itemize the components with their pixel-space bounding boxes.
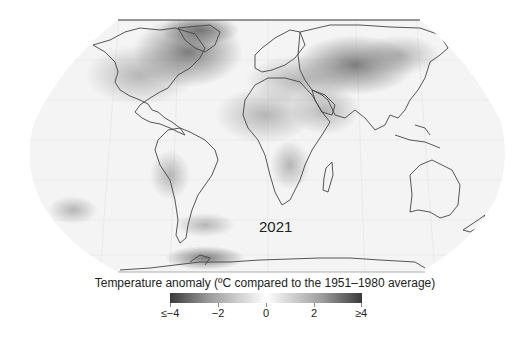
world-map: 2021 [0, 0, 530, 275]
tick-label-neg2: −2 [198, 307, 238, 319]
tick-label-min: ≤−4 [150, 307, 190, 319]
tick-label-zero: 0 [246, 307, 286, 319]
colorbar [170, 293, 362, 303]
legend-title: Temperature anomaly (ºC compared to the … [0, 276, 530, 290]
year-label: 2021 [259, 218, 292, 235]
tick-label-pos2: 2 [294, 307, 334, 319]
tick-label-max: ≥4 [341, 307, 381, 319]
